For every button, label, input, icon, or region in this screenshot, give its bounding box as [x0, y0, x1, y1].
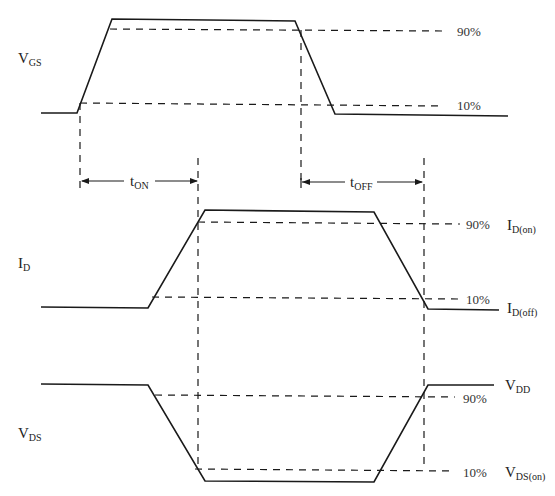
vgs-label: VGS	[18, 50, 42, 68]
vgs-10-line	[80, 103, 442, 106]
id-waveform	[41, 210, 499, 310]
id-on-label: ID(on)	[507, 217, 536, 236]
toff-label: tOFF	[350, 174, 373, 192]
vgs-waveform	[41, 19, 508, 116]
vds-90-line	[155, 395, 455, 397]
id-90-label: 90%	[466, 217, 490, 232]
vds-label: VDS	[18, 425, 42, 443]
vgs-90-label: 90%	[457, 24, 481, 39]
vds-on-label: VDS(on)	[505, 464, 545, 483]
vgs-10-label: 10%	[457, 98, 481, 113]
vds-waveform	[41, 384, 494, 482]
id-90-line	[198, 222, 460, 224]
id-10-line	[152, 297, 460, 299]
vdd-label: VDD	[505, 377, 530, 395]
vds-90-label: 90%	[463, 391, 487, 406]
ton-label: tON	[130, 173, 149, 191]
vds-10-label: 10%	[463, 465, 487, 480]
vgs-90-line	[110, 29, 442, 31]
id-10-label: 10%	[466, 292, 490, 307]
id-label: ID	[18, 255, 30, 273]
vds-10-line	[195, 469, 455, 471]
id-off-label: ID(off)	[507, 300, 537, 319]
switching-waveform-diagram: tON tOFF VGS ID VDS 90% 10% 90% 10% 90% …	[0, 0, 555, 496]
